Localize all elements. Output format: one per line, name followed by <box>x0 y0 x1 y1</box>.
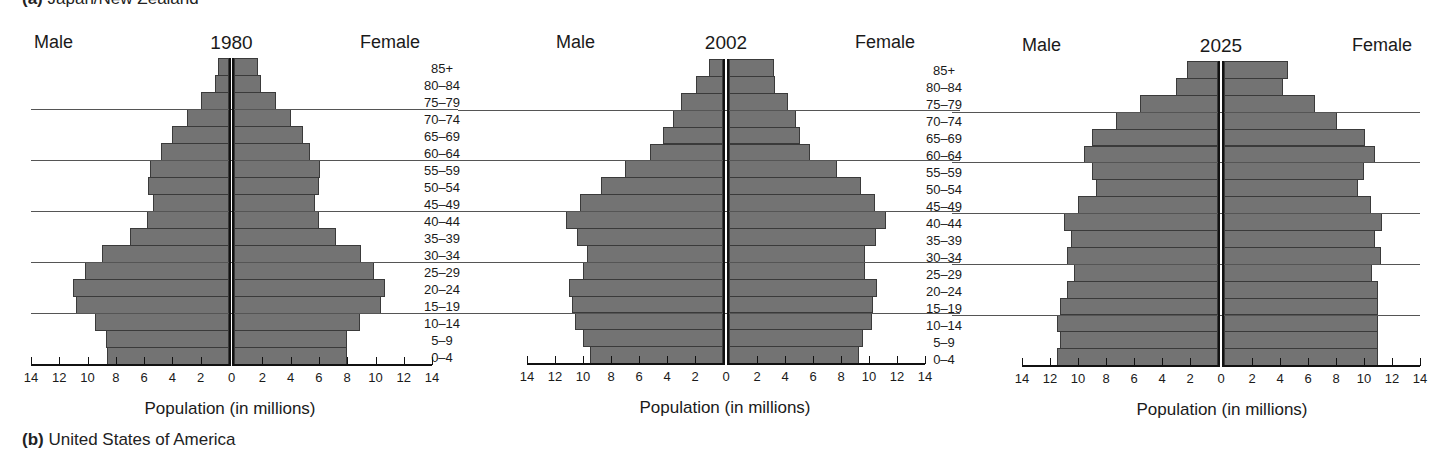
male-bar <box>95 313 229 331</box>
male-bar <box>1064 213 1218 231</box>
male-bar <box>580 194 723 212</box>
chart-title: 2025 <box>1200 35 1242 57</box>
male-bar <box>601 177 723 195</box>
x-tick-label: 4 <box>169 370 176 385</box>
male-bar <box>673 110 723 128</box>
male-bar <box>1096 179 1218 197</box>
x-tick-label: 0 <box>722 369 729 384</box>
caption-prefix: (a) <box>22 0 43 8</box>
male-bar <box>150 160 229 178</box>
female-bar <box>234 194 315 212</box>
male-bar <box>650 144 723 162</box>
age-group-label: 60–64 <box>412 145 472 162</box>
male-label: Male <box>1022 35 1061 56</box>
age-group-label: 60–64 <box>914 147 974 164</box>
male-bar <box>187 109 229 127</box>
top-caption: (a) Japan/New Zealand <box>22 0 199 9</box>
male-bar <box>1084 146 1218 164</box>
male-bar <box>1176 78 1218 96</box>
gridline <box>952 112 1420 113</box>
female-bar <box>1224 213 1382 231</box>
age-group-label: 65–69 <box>914 130 974 147</box>
female-bar <box>234 313 360 331</box>
female-bar <box>1224 61 1288 79</box>
chart-title: 2002 <box>705 32 747 54</box>
x-tick <box>555 356 556 364</box>
female-bar <box>729 228 876 246</box>
x-tick-label: 10 <box>80 370 94 385</box>
x-axis-title: Population (in millions) <box>144 399 315 419</box>
male-bar <box>148 177 229 195</box>
male-bar <box>1057 348 1218 366</box>
x-tick-label: 2 <box>691 369 698 384</box>
male-axis <box>723 59 725 365</box>
male-bar <box>1092 129 1218 147</box>
female-axis <box>1222 61 1224 367</box>
x-tick <box>1022 358 1023 366</box>
male-bar <box>1116 112 1218 130</box>
x-tick-label: 12 <box>397 370 411 385</box>
male-bar <box>583 262 723 280</box>
female-bar <box>1224 331 1378 349</box>
x-tick <box>291 357 292 365</box>
male-bar <box>1074 264 1218 282</box>
age-group-label: 0–4 <box>412 349 472 366</box>
age-group-label: 25–29 <box>412 264 472 281</box>
male-bar <box>1078 196 1218 214</box>
gridline <box>458 262 960 263</box>
age-group-label: 75–79 <box>412 94 472 111</box>
male-bar <box>663 127 723 145</box>
male-bar <box>1187 61 1218 79</box>
age-group-label: 15–19 <box>412 298 472 315</box>
x-tick <box>757 356 758 364</box>
age-group-label: 80–84 <box>412 77 472 94</box>
x-tick-label: 6 <box>1130 371 1137 386</box>
age-group-label: 70–74 <box>412 111 472 128</box>
gridline <box>31 160 458 161</box>
male-bar <box>147 211 229 229</box>
male-bar <box>709 59 723 77</box>
age-group-label: 30–34 <box>412 247 472 264</box>
gridline <box>952 213 1420 214</box>
x-tick <box>347 357 348 365</box>
male-bar <box>106 330 229 348</box>
male-bar <box>215 75 229 93</box>
age-group-label: 0–4 <box>914 351 974 368</box>
age-group-label: 20–24 <box>914 283 974 300</box>
male-bar <box>1067 281 1218 299</box>
x-tick <box>144 357 145 365</box>
x-tick <box>897 356 898 364</box>
x-tick-label: 4 <box>1276 371 1283 386</box>
female-bar <box>1224 247 1381 265</box>
age-group-label: 35–39 <box>914 232 974 249</box>
male-bar <box>1060 331 1218 349</box>
male-bar <box>85 262 229 280</box>
x-tick <box>527 356 528 364</box>
male-bar <box>577 228 723 246</box>
x-tick-label: 14 <box>918 369 932 384</box>
female-axis <box>727 59 729 365</box>
female-label: Female <box>1352 35 1412 56</box>
x-tick <box>583 356 584 364</box>
male-bar <box>572 296 723 314</box>
x-tick <box>667 356 668 364</box>
female-bar <box>1224 264 1372 282</box>
female-bar <box>729 177 861 195</box>
x-tick-label: 6 <box>1304 371 1311 386</box>
male-bar <box>590 346 723 364</box>
male-bar <box>681 93 723 111</box>
female-bar <box>234 160 320 178</box>
x-tick-label: 12 <box>52 370 66 385</box>
x-tick-label: 0 <box>1217 371 1224 386</box>
gridline <box>458 160 960 161</box>
age-group-labels: 85+80–8475–7970–7465–6960–6455–5950–5445… <box>914 62 974 368</box>
age-group-label: 10–14 <box>914 317 974 334</box>
bottom-caption: (b) United States of America <box>22 430 236 450</box>
male-bar <box>130 228 229 246</box>
x-tick <box>31 357 32 365</box>
x-tick-label: 14 <box>1413 371 1427 386</box>
male-label: Male <box>34 32 73 53</box>
x-tick <box>201 357 202 365</box>
x-tick <box>611 356 612 364</box>
x-tick-label: 8 <box>1332 371 1339 386</box>
